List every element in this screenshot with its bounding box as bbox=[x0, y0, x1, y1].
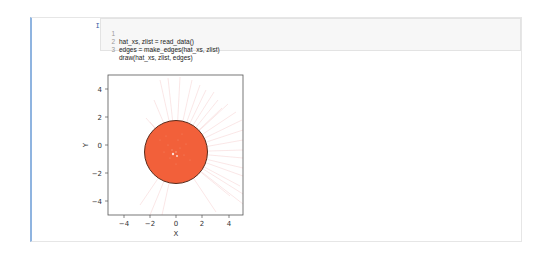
x-axis-label: X bbox=[174, 230, 179, 238]
xtick-label: −2 bbox=[145, 220, 155, 228]
disk bbox=[145, 121, 208, 184]
output-plot: −4 −2 0 2 4 4 2 0 −2 −4 X Y bbox=[0, 0, 551, 256]
ytick-label: 2 bbox=[98, 114, 102, 122]
xtick-label: 0 bbox=[174, 220, 178, 228]
xtick-label: 4 bbox=[227, 220, 232, 228]
ytick-label: −4 bbox=[92, 198, 103, 206]
xtick-label: −4 bbox=[119, 220, 130, 228]
ytick-label: −2 bbox=[92, 170, 102, 178]
y-axis-label: Y bbox=[82, 142, 90, 148]
ytick-label: 0 bbox=[98, 142, 102, 150]
ytick-label: 4 bbox=[98, 86, 103, 94]
xtick-label: 2 bbox=[200, 220, 204, 228]
